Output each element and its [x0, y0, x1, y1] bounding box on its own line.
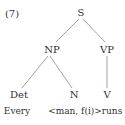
edge-np-n	[50, 56, 72, 88]
example-number: (7)	[5, 8, 19, 20]
word-man-fi: <man, f(i)>	[48, 105, 102, 117]
node-vp: VP	[100, 44, 114, 56]
edge-s-np	[56, 19, 79, 42]
node-v: V	[103, 89, 110, 101]
edge-s-vp	[83, 19, 105, 42]
word-runs: runs	[102, 105, 123, 117]
node-np: NP	[44, 44, 59, 56]
edge-np-det	[22, 56, 48, 88]
word-every: Every	[4, 105, 30, 117]
node-s: S	[78, 7, 85, 19]
node-n: N	[70, 89, 79, 101]
node-det: Det	[10, 89, 28, 101]
